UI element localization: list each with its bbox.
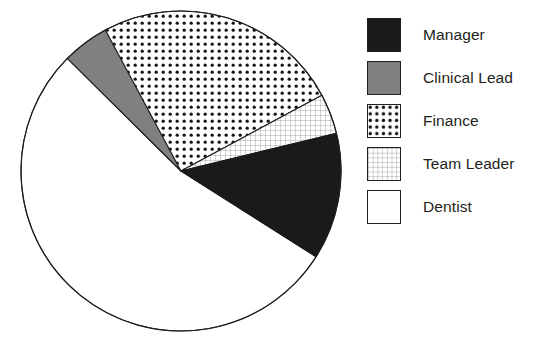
- legend-swatch-solid-black-icon: [367, 18, 401, 52]
- pie-chart-area: [0, 0, 362, 347]
- chart-legend: Manager Clinical Lead: [367, 13, 535, 228]
- legend-swatch-solid-gray-icon: [367, 61, 401, 95]
- legend-label-clinical-lead: Clinical Lead: [423, 70, 513, 86]
- legend-item-manager: Manager: [367, 13, 535, 56]
- legend-item-finance: Finance: [367, 99, 535, 142]
- legend-label-dentist: Dentist: [423, 199, 472, 215]
- pie-chart-svg: [0, 0, 362, 347]
- legend-swatch-dotted-icon: [367, 104, 401, 138]
- legend-item-team-leader: Team Leader: [367, 142, 535, 185]
- legend-item-clinical-lead: Clinical Lead: [367, 56, 535, 99]
- legend-label-team-leader: Team Leader: [423, 156, 515, 172]
- pie-chart-figure: Manager Clinical Lead: [0, 0, 535, 347]
- legend-swatch-grid-icon: [367, 147, 401, 181]
- legend-swatch-solid-white-icon: [367, 190, 401, 224]
- legend-item-dentist: Dentist: [367, 185, 535, 228]
- legend-label-finance: Finance: [423, 113, 479, 129]
- legend-label-manager: Manager: [423, 27, 485, 43]
